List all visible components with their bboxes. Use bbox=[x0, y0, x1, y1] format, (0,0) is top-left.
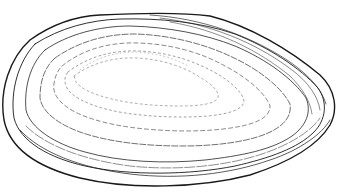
clam-shell-icon bbox=[0, 0, 349, 195]
shell-illustration bbox=[0, 0, 349, 195]
